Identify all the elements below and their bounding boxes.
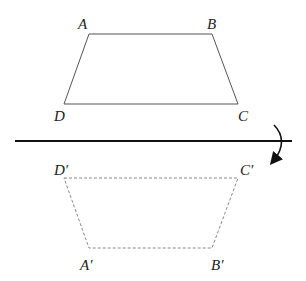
- label-A-prime: A′: [79, 257, 93, 273]
- reflection-diagram: A B C D D′ C′ A′ B′: [0, 0, 306, 281]
- label-D-prime: D′: [53, 162, 69, 178]
- reflected-trapezoid: [64, 178, 238, 248]
- diagram-svg: A B C D D′ C′ A′ B′: [0, 0, 306, 281]
- label-C: C: [238, 108, 249, 124]
- label-C-prime: C′: [240, 162, 254, 178]
- label-D: D: [53, 108, 65, 124]
- label-A: A: [77, 16, 88, 32]
- label-B-prime: B′: [211, 257, 224, 273]
- label-B: B: [207, 16, 216, 32]
- rotation-arrow-icon: [274, 125, 282, 160]
- original-trapezoid: [64, 34, 238, 104]
